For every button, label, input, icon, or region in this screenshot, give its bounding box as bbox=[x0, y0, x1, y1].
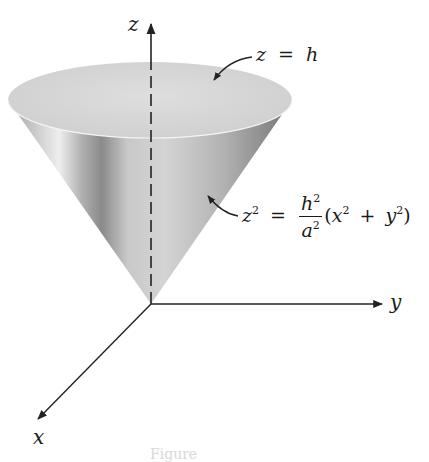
eq-num-exp: 2 bbox=[313, 192, 320, 205]
eq-y: y bbox=[385, 204, 396, 226]
cone-surface-equation: z2 = h2 a2 (x2 + y2) bbox=[242, 193, 411, 240]
eq-denominator: a2 bbox=[299, 217, 322, 240]
eq-den-exp: 2 bbox=[313, 219, 320, 232]
eq-equals: = bbox=[278, 43, 294, 65]
figure-caption: Figure bbox=[150, 446, 197, 462]
eq-open-paren: ( bbox=[324, 204, 331, 226]
eq-h: h bbox=[306, 43, 318, 65]
top-plane-equation: z = h bbox=[256, 45, 318, 64]
eq-lhs-z: z bbox=[242, 204, 252, 226]
x-axis bbox=[38, 304, 151, 419]
eq-z: z bbox=[256, 43, 266, 65]
z-axis-label: z bbox=[128, 14, 139, 34]
eq-equals: = bbox=[270, 204, 286, 226]
x-axis-label: x bbox=[33, 427, 44, 447]
eq-close-paren: ) bbox=[403, 204, 410, 226]
eq-fraction: h2 a2 bbox=[299, 193, 322, 240]
eq-lhs-exp: 2 bbox=[252, 204, 259, 217]
eq-num-h: h bbox=[301, 192, 313, 214]
y-axis-label: y bbox=[390, 292, 401, 312]
eq-plus: + bbox=[359, 204, 375, 226]
eq-den-a: a bbox=[301, 219, 312, 241]
eq-x-exp: 2 bbox=[342, 204, 349, 217]
eq-numerator: h2 bbox=[299, 193, 322, 217]
eq-x: x bbox=[332, 204, 343, 226]
